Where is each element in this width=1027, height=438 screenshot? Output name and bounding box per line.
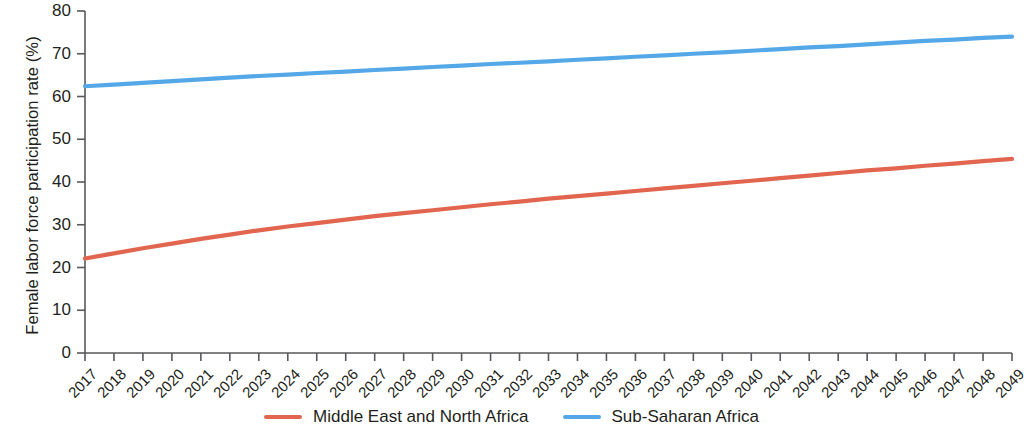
y-tick-label: 40: [13, 173, 71, 190]
legend-item[interactable]: Sub-Saharan Africa: [563, 407, 759, 427]
series-line: [85, 159, 1012, 259]
legend-label: Sub-Saharan Africa: [612, 407, 759, 427]
y-tick-label: 20: [13, 259, 71, 276]
y-tick-label: 70: [13, 45, 71, 62]
y-tick-label: 60: [13, 88, 71, 105]
y-tick-label: 50: [13, 130, 71, 147]
series-lines: [85, 37, 1012, 259]
y-tick-label: 30: [13, 216, 71, 233]
y-tick-marks: [77, 11, 85, 353]
legend-color-swatch: [264, 415, 302, 419]
chart-legend: Middle East and North AfricaSub-Saharan …: [0, 407, 1023, 427]
y-tick-label: 80: [13, 2, 71, 19]
x-tick-marks: [85, 353, 1012, 361]
legend-label: Middle East and North Africa: [313, 407, 528, 427]
y-tick-label: 0: [13, 344, 71, 361]
legend-color-swatch: [563, 415, 601, 419]
series-line: [85, 37, 1012, 87]
legend-item[interactable]: Middle East and North Africa: [264, 407, 528, 427]
y-tick-label: 10: [13, 301, 71, 318]
